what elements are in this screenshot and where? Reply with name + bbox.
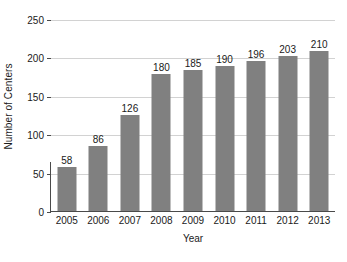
bar-group[interactable]: 203 — [272, 20, 304, 212]
bar-group[interactable]: 190 — [209, 20, 241, 212]
bar[interactable] — [278, 56, 297, 212]
bar-group[interactable]: 126 — [114, 20, 146, 212]
bar-group[interactable]: 196 — [240, 20, 272, 212]
y-axis-title: Number of Centers — [0, 0, 16, 212]
bar-value-label: 210 — [311, 39, 328, 50]
y-tick-label: 200 — [27, 53, 44, 64]
x-axis-title: Year — [51, 233, 335, 244]
bar[interactable] — [310, 51, 329, 212]
bar[interactable] — [89, 146, 108, 212]
bar-value-label: 185 — [185, 58, 202, 69]
plot-area: 050100150200250 588612618018519019620321… — [51, 20, 335, 212]
y-axis-line — [50, 162, 51, 212]
bar[interactable] — [57, 167, 76, 212]
bars-layer: 5886126180185190196203210 — [51, 20, 335, 212]
bar-chart-figure: Number of Centers 050100150200250 588612… — [0, 0, 347, 262]
bar-group[interactable]: 180 — [146, 20, 178, 212]
x-tick-label: 2007 — [114, 215, 146, 226]
x-axis-line — [51, 211, 335, 212]
x-tick-label: 2009 — [177, 215, 209, 226]
bar[interactable] — [215, 66, 234, 212]
y-axis-title-label: Number of Centers — [3, 63, 14, 149]
y-tick-mark — [47, 212, 51, 213]
bar-group[interactable]: 58 — [51, 20, 83, 212]
bar-group[interactable]: 185 — [177, 20, 209, 212]
y-tick-label: 250 — [27, 15, 44, 26]
bar-group[interactable]: 210 — [303, 20, 335, 212]
y-tick-label: 150 — [27, 91, 44, 102]
bar-value-label: 196 — [248, 49, 265, 60]
x-tick-label: 2008 — [146, 215, 178, 226]
x-tick-label: 2005 — [51, 215, 83, 226]
bar-value-label: 126 — [122, 103, 139, 114]
y-tick-label: 50 — [33, 168, 44, 179]
y-tick-label: 100 — [27, 130, 44, 141]
x-tick-label: 2006 — [83, 215, 115, 226]
bar-value-label: 86 — [93, 134, 104, 145]
bar-value-label: 58 — [61, 155, 72, 166]
x-tick-label: 2011 — [240, 215, 272, 226]
x-tick-label: 2013 — [303, 215, 335, 226]
bar-value-label: 190 — [216, 54, 233, 65]
bar[interactable] — [152, 74, 171, 212]
bar[interactable] — [120, 115, 139, 212]
bar-value-label: 203 — [279, 44, 296, 55]
bar[interactable] — [247, 61, 266, 212]
x-tick-label: 2012 — [272, 215, 304, 226]
y-tick-label: 0 — [38, 207, 44, 218]
bar[interactable] — [183, 70, 202, 212]
x-tick-label: 2010 — [209, 215, 241, 226]
bar-value-label: 180 — [153, 62, 170, 73]
bar-group[interactable]: 86 — [83, 20, 115, 212]
